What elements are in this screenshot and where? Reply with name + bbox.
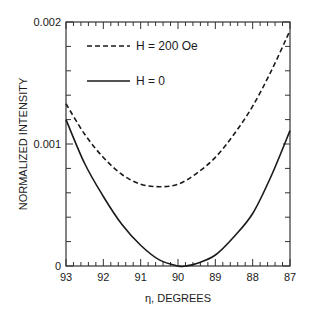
series-h200-dashed-line: [66, 31, 290, 187]
x-tick-label: 87: [284, 271, 296, 283]
tick-labels: 9392919089888700.0010.002: [33, 16, 296, 283]
x-tick-label: 90: [172, 271, 184, 283]
intensity-chart: 9392919089888700.0010.002 H = 200 Oe H =…: [0, 0, 314, 312]
legend-label-h0: H = 0: [136, 74, 165, 88]
plot-frame: [66, 22, 290, 266]
legend: H = 200 Oe H = 0: [87, 39, 198, 88]
x-tick-label: 93: [60, 271, 72, 283]
x-tick-label: 91: [135, 271, 147, 283]
y-tick-label: 0.001: [33, 138, 61, 150]
series-lines: [66, 31, 290, 267]
tick-marks: [66, 22, 290, 266]
y-axis-label: NORMALIZED INTENSITY: [17, 77, 29, 210]
x-tick-label: 92: [97, 271, 109, 283]
x-tick-label: 89: [209, 271, 221, 283]
y-tick-label: 0.002: [33, 16, 61, 28]
legend-label-h200: H = 200 Oe: [136, 39, 198, 53]
y-tick-label: 0: [55, 260, 61, 272]
x-axis-label: η, DEGREES: [145, 292, 211, 304]
series-h0-solid-line: [66, 120, 290, 267]
x-tick-label: 88: [247, 271, 259, 283]
